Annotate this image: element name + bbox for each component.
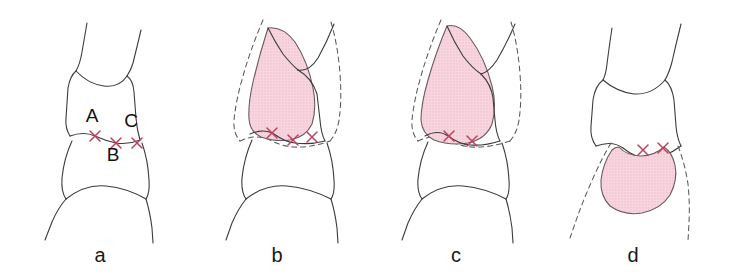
panel-caption-b: b	[271, 244, 282, 266]
structure-label-a: A	[86, 105, 99, 126]
structure-label-c: C	[124, 110, 138, 131]
anatomical-figure-canvas: A B C a	[0, 0, 739, 279]
panel-caption-d: d	[627, 244, 638, 266]
structure-label-b: B	[107, 144, 120, 165]
panel-caption-a: a	[94, 244, 106, 266]
panel-caption-c: c	[451, 244, 461, 266]
figure-root: A B C a	[0, 0, 739, 279]
figure-background	[0, 0, 739, 279]
